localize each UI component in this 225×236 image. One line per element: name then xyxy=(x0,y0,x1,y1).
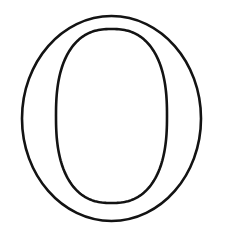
letter-o-outline-drawing xyxy=(0,0,225,236)
background xyxy=(0,0,225,236)
canvas xyxy=(0,0,225,236)
